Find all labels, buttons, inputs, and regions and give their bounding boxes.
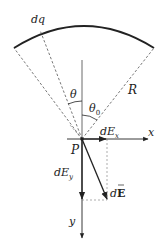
point-P [80, 137, 84, 141]
dEx-label: dEx [100, 125, 119, 140]
dq-label: dq [31, 13, 45, 26]
arc-field-diagram: dq θ θ0 R P dEx x dEy dE y [0, 0, 164, 241]
theta0-label: θ0 [89, 102, 100, 117]
dEy-label: dEy [54, 166, 74, 181]
y-axis-label: y [68, 215, 76, 228]
P-label: P [70, 143, 80, 157]
theta-angle-arc [68, 101, 82, 104]
theta-label: θ [70, 88, 77, 101]
radius-extension [70, 125, 82, 139]
R-label: R [127, 83, 137, 97]
radius-to-dq [40, 30, 82, 139]
dE-vector [82, 139, 107, 199]
x-axis-label: x [148, 126, 155, 139]
charged-arc [14, 26, 154, 48]
dE-label: dE [110, 187, 125, 200]
radius-right-edge [82, 48, 154, 139]
